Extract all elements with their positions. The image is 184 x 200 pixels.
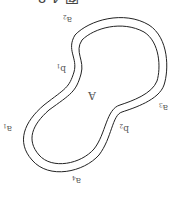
- label-a1: a1: [3, 123, 12, 134]
- closed-band-diagram: 图 4-8 A a4 a1 b2 a3 b1 a2: [0, 0, 184, 200]
- label-a3: a3: [159, 102, 168, 113]
- label-b2: b2: [119, 123, 129, 134]
- label-b1: b1: [56, 63, 66, 74]
- label-a4: a4: [72, 175, 81, 186]
- svg-text:a3: a3: [159, 102, 168, 113]
- svg-text:b1: b1: [56, 63, 66, 74]
- svg-text:a1: a1: [3, 123, 12, 134]
- title-fragment: 图 4-8: [38, 0, 79, 6]
- svg-text:a2: a2: [63, 14, 72, 25]
- label-a2: a2: [63, 14, 72, 25]
- svg-text:b2: b2: [119, 123, 129, 134]
- region-label-a: A: [87, 89, 97, 102]
- svg-text:a4: a4: [72, 175, 81, 186]
